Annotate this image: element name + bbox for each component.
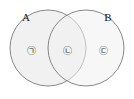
set-label-b: B — [104, 11, 111, 23]
set-label-a: A — [22, 11, 30, 23]
region-mark-a-and-b: ㉡ — [63, 46, 72, 56]
region-mark-a-only: ㉠ — [27, 46, 36, 56]
region-mark-b-only: ㉢ — [99, 46, 108, 56]
set-circle-b — [48, 10, 124, 86]
venn-diagram-figure: A B ㉠ ㉡ ㉢ — [0, 0, 134, 99]
